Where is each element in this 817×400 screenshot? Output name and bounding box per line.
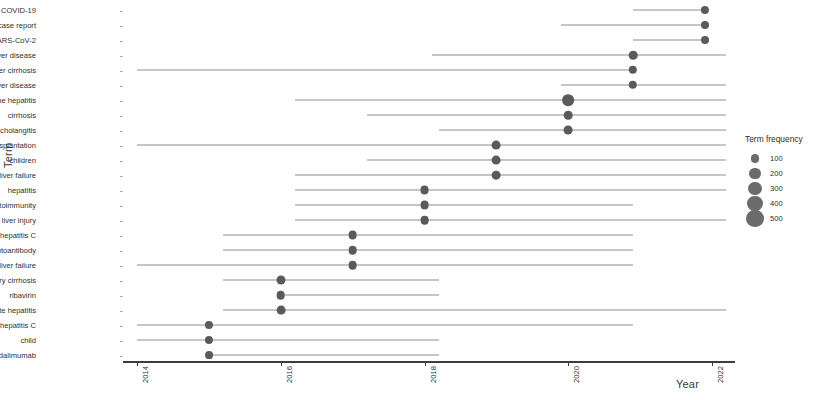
y-axis-tick-label: adalimumab (0, 351, 36, 360)
legend-item: 100 (744, 151, 817, 166)
legend: Term frequency 100200300400500 (744, 134, 817, 226)
data-point (564, 126, 573, 135)
y-axis-tick-label: liver transplantation (0, 141, 36, 150)
data-point (492, 156, 501, 165)
data-point (701, 21, 709, 29)
y-axis-tick-mark: - (120, 321, 123, 330)
data-point (492, 141, 501, 150)
y-axis-tick-mark: - (120, 306, 123, 315)
data-point (629, 81, 637, 89)
data-point (420, 186, 429, 195)
legend-items: 100200300400500 (744, 151, 817, 226)
data-point (205, 321, 213, 329)
range-line (432, 55, 727, 56)
y-axis-tick-mark: - (120, 351, 123, 360)
y-axis-tick-mark: - (120, 36, 123, 45)
range-line (295, 205, 633, 206)
y-axis-tick-mark: - (120, 216, 123, 225)
range-line (223, 250, 633, 251)
y-axis-tick-mark: - (120, 81, 123, 90)
y-axis-tick-label: cirrhosis (8, 111, 36, 120)
y-axis-tick-mark: - (120, 96, 123, 105)
legend-dot-key (744, 182, 766, 195)
range-line (137, 70, 633, 71)
legend-label: 200 (770, 169, 783, 178)
y-axis-tick-mark: - (120, 6, 123, 15)
range-line (137, 340, 439, 341)
x-axis-title: Year (676, 378, 699, 390)
legend-label: 400 (770, 199, 783, 208)
y-axis-tick-mark: - (120, 291, 123, 300)
y-axis-tick-label: case report (0, 21, 36, 30)
y-axis-tick-mark: - (120, 126, 123, 135)
data-point (629, 51, 638, 60)
range-line (295, 175, 726, 176)
range-line (137, 265, 633, 266)
range-line (561, 85, 726, 86)
range-line (633, 40, 705, 41)
y-axis-tick-mark: - (120, 66, 123, 75)
x-axis-tick-mark (281, 362, 282, 366)
range-line (295, 220, 726, 221)
x-axis-tick-mark (425, 362, 426, 366)
y-axis-tick-mark: - (120, 141, 123, 150)
y-axis-tick-mark: - (120, 171, 123, 180)
y-axis-tick-label: hepatitis (8, 186, 36, 195)
legend-dot-key (744, 168, 766, 179)
y-axis-tick-label: children (9, 156, 36, 165)
range-line (281, 295, 439, 296)
legend-label: 100 (770, 154, 783, 163)
x-axis-tick-label: 2014 (141, 366, 150, 383)
y-axis-tick-mark: - (120, 51, 123, 60)
y-axis-tick-mark: - (120, 21, 123, 30)
data-point (701, 36, 709, 44)
data-point (562, 94, 574, 106)
y-axis-tick-mark: - (120, 201, 123, 210)
legend-item: 400 (744, 196, 817, 211)
y-axis-tick-label: COVID-19 (1, 6, 36, 15)
y-axis-tick-mark: - (120, 261, 123, 270)
x-axis-tick-label: 2018 (429, 366, 438, 383)
data-point (420, 216, 429, 225)
legend-item: 300 (744, 181, 817, 196)
y-axis-tick-label: hepatitis C (0, 231, 36, 240)
range-line (137, 145, 726, 146)
y-axis-tick-label: drug-induced liver injury (0, 216, 36, 225)
chart-figure: Term COVID-19-case report-SARS-CoV-2-aut… (0, 0, 817, 400)
legend-item: 200 (744, 166, 817, 181)
data-point (348, 246, 357, 255)
legend-label: 300 (770, 184, 783, 193)
legend-dot-key (744, 210, 766, 227)
legend-dot (747, 196, 762, 211)
data-point (348, 231, 357, 240)
legend-dot (749, 168, 760, 179)
legend-dot-key (744, 154, 766, 163)
y-axis-tick-label: liver disease (0, 81, 36, 90)
y-axis-tick-label: child (20, 336, 36, 345)
data-point (492, 171, 501, 180)
legend-dot (746, 210, 763, 227)
range-line (367, 160, 726, 161)
data-point (276, 291, 285, 300)
data-point (629, 66, 637, 74)
data-point (564, 111, 573, 120)
x-axis-tick-label: 2020 (572, 366, 581, 383)
range-line (295, 100, 726, 101)
x-axis-tick-label: 2016 (285, 366, 294, 383)
range-line (223, 280, 439, 281)
range-line (223, 310, 726, 311)
legend-dot (751, 154, 760, 163)
y-axis-tick-mark: - (120, 186, 123, 195)
range-line (295, 190, 726, 191)
x-axis-tick-label: 2022 (716, 366, 725, 383)
y-axis-tick-label: ribavirin (9, 291, 36, 300)
plot-area: COVID-19-case report-SARS-CoV-2-autoimmu… (0, 0, 735, 370)
y-axis-tick-mark: - (120, 156, 123, 165)
data-point (420, 201, 429, 210)
legend-label: 500 (770, 214, 783, 223)
y-axis-tick-label: autoimmunity (0, 201, 36, 210)
legend-dot (748, 182, 761, 195)
x-axis-tick-mark (568, 362, 569, 366)
y-axis-tick-mark: - (120, 276, 123, 285)
y-axis-tick-label: acute liver failure (0, 171, 36, 180)
